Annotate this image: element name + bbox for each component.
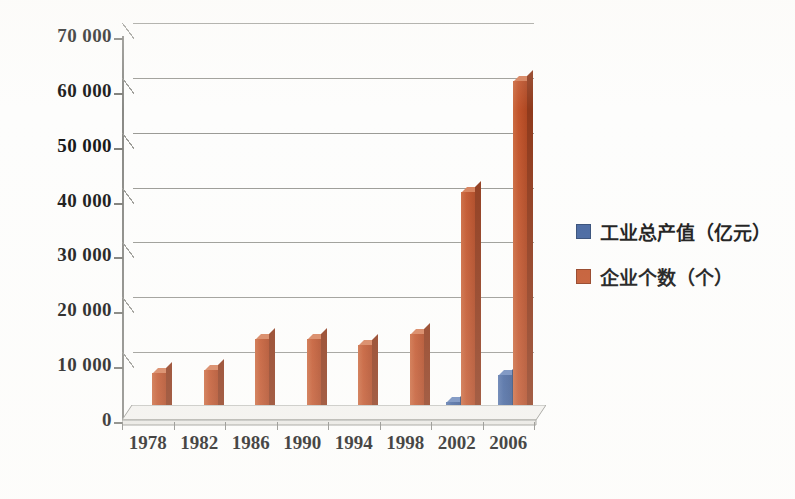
bar-front-face	[461, 192, 475, 422]
bar-side-face	[269, 328, 275, 417]
y-axis-tick-label: 70 000	[57, 25, 112, 47]
y-axis-tick	[114, 257, 123, 259]
y-axis-tick-label: 60 000	[57, 80, 112, 102]
x-axis-tick-label-2006: 2006	[478, 432, 538, 454]
x-axis-tick	[122, 422, 123, 430]
y-axis-labels: 010 00020 00030 00040 00050 00060 00070 …	[0, 38, 112, 422]
x-axis-tick	[431, 422, 432, 430]
legend-item-enterprise-count: 企业个数（个）	[576, 263, 791, 290]
y-axis-tick-label: 30 000	[57, 244, 112, 266]
x-axis-tick	[277, 422, 278, 430]
gridline-riser	[122, 133, 134, 149]
x-axis-tick	[483, 422, 484, 430]
x-axis-tick	[534, 422, 535, 430]
bar-side-face	[424, 323, 430, 417]
gridline	[133, 23, 534, 24]
bar-2002-enterprise-count	[461, 192, 475, 422]
y-axis-tick-label: 40 000	[57, 190, 112, 212]
gridline	[133, 78, 534, 79]
legend-label-enterprise-count: 企业个数（个）	[600, 263, 733, 290]
x-axis-tick	[174, 422, 175, 430]
y-axis-tick-label: 50 000	[57, 135, 112, 157]
bar-2006-enterprise-count	[513, 81, 527, 422]
x-axis-tick	[328, 422, 329, 430]
y-axis-tick	[114, 93, 123, 95]
plot-area	[122, 38, 534, 422]
gridline-riser	[122, 188, 134, 204]
bar-side-face	[475, 181, 481, 417]
legend-item-industrial-output: 工业总产值（亿元）	[576, 218, 791, 245]
y-axis-tick	[114, 312, 123, 314]
x-axis-labels: 19781982198619901994199820022006	[122, 432, 542, 466]
y-axis-tick	[114, 203, 123, 205]
legend-label-industrial-output: 工业总产值（亿元）	[600, 218, 771, 245]
legend-swatch-orange-icon	[576, 269, 591, 284]
bar-side-face	[321, 328, 327, 417]
y-axis-tick	[114, 148, 123, 150]
y-axis-tick-label: 20 000	[57, 299, 112, 321]
gridline-riser	[122, 23, 134, 39]
bar-front-face	[513, 81, 527, 422]
y-axis-tick	[114, 367, 123, 369]
chart-legend: 工业总产值（亿元） 企业个数（个）	[576, 218, 791, 308]
y-axis-tick-label: 0	[102, 409, 112, 431]
x-axis-tick	[380, 422, 381, 430]
gridline-riser	[122, 78, 134, 94]
bar-side-face	[527, 70, 533, 417]
y-axis-tick	[114, 38, 123, 40]
gridline-riser	[122, 352, 134, 368]
gridline	[133, 133, 534, 134]
chart-figure: 010 00020 00030 00040 00050 00060 00070 …	[0, 0, 795, 499]
gridline-riser	[122, 297, 134, 313]
legend-swatch-blue-icon	[576, 224, 591, 239]
gridline-riser	[122, 242, 134, 258]
y-axis-tick-label: 10 000	[57, 354, 112, 376]
x-axis-tick	[225, 422, 226, 430]
